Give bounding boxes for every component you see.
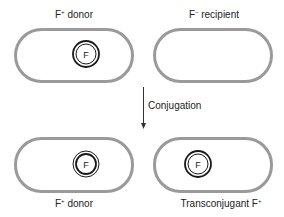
cell-label-bottom-right: Transconjugant F+ bbox=[181, 198, 262, 209]
conjugation-diagram: F+ donor F F– recipient Conjugation F F+… bbox=[0, 0, 284, 217]
cell-label-bottom-left: F+ donor bbox=[55, 198, 94, 209]
cell-label-top-left: F+ donor bbox=[55, 9, 94, 20]
bacterial-cell-outline bbox=[155, 139, 272, 192]
bacterial-cell-outline bbox=[16, 30, 133, 82]
bacterial-cell-outline bbox=[16, 139, 133, 192]
conjugation-arrow: Conjugation bbox=[141, 87, 201, 129]
plasmid-label: F bbox=[195, 160, 201, 170]
cell-bottom-right: F Transconjugant F+ bbox=[155, 139, 272, 210]
plasmid-label: F bbox=[83, 50, 89, 60]
arrow-label: Conjugation bbox=[148, 100, 201, 111]
plasmid-label: F bbox=[83, 160, 89, 170]
cell-top-left: F+ donor F bbox=[16, 9, 133, 82]
cell-bottom-left: F F+ donor bbox=[16, 139, 133, 210]
arrow-down-icon bbox=[141, 123, 146, 129]
f-plasmid-icon: F bbox=[185, 151, 211, 177]
f-plasmid-icon: F bbox=[73, 151, 99, 177]
bacterial-cell-outline bbox=[155, 30, 272, 82]
cell-top-right: F– recipient bbox=[155, 9, 272, 82]
cell-label-top-right: F– recipient bbox=[189, 9, 239, 20]
f-plasmid-icon: F bbox=[73, 41, 99, 67]
